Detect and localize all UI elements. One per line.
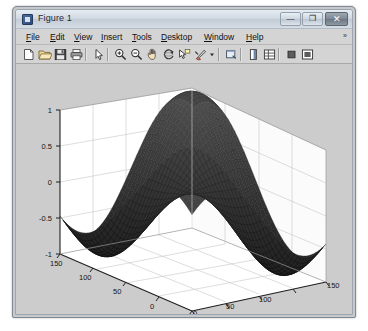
pointer-icon[interactable]: [91, 47, 106, 62]
y-tick-label: 50: [113, 287, 121, 296]
menu-overflow-icon[interactable]: »: [343, 32, 347, 39]
zoom-out-icon[interactable]: [129, 47, 144, 62]
insert-colorbar-icon[interactable]: [246, 47, 261, 62]
save-figure-icon[interactable]: [53, 47, 68, 62]
x-tick-label: 100: [259, 295, 272, 304]
menu-item-label: esktop: [167, 32, 192, 42]
brush-dropdown-icon[interactable]: [207, 47, 217, 62]
data-cursor-icon[interactable]: [177, 47, 192, 62]
open-file-icon[interactable]: [37, 47, 52, 62]
menu-bar: File Edit View Insert Tools Desktop Wind…: [16, 29, 352, 45]
x-tick-label: 50: [226, 302, 234, 311]
window-inner-frame: Figure 1 — ❐ ✕ File Edit View Insert Too…: [15, 9, 353, 315]
toolbar: [16, 45, 352, 64]
toolbar-separator: [107, 48, 109, 61]
y-tick-label: 150: [50, 259, 63, 268]
pan-icon[interactable]: [145, 47, 160, 62]
new-figure-icon[interactable]: [21, 47, 36, 62]
figure-window[interactable]: Figure 1 — ❐ ✕ File Edit View Insert Too…: [12, 6, 356, 318]
menu-item-view[interactable]: View: [72, 31, 94, 43]
menu-item-label: iew: [80, 32, 93, 42]
menu-item-help[interactable]: Help: [244, 31, 265, 43]
link-plot-icon[interactable]: [224, 47, 239, 62]
z-axis-ticks: [56, 110, 60, 254]
maximize-icon: ❐: [303, 13, 322, 25]
insert-legend-icon[interactable]: [262, 47, 277, 62]
surface-plot[interactable]: 1 0.5 0 -0.5 -1 150 100 50 0 0 50 100 15…: [16, 64, 352, 314]
figure-canvas[interactable]: 1 0.5 0 -0.5 -1 150 100 50 0 0 50 100 15…: [16, 64, 352, 314]
menu-item-label: ile: [31, 32, 40, 42]
z-tick-label: 0.5: [42, 142, 52, 151]
y-tick-label: 0: [150, 302, 154, 311]
x-tick-label: 0: [193, 309, 197, 314]
toolbar-separator: [218, 48, 220, 61]
z-tick-label: 0: [48, 178, 52, 187]
print-figure-icon[interactable]: [69, 47, 84, 62]
window-title: Figure 1: [38, 13, 72, 23]
menu-item-label: indow: [212, 32, 234, 42]
zoom-in-icon[interactable]: [113, 47, 128, 62]
minimize-icon: —: [281, 13, 300, 25]
toolbar-separator: [278, 48, 280, 61]
minimize-button[interactable]: —: [280, 12, 301, 26]
title-bar[interactable]: Figure 1 — ❐ ✕: [16, 10, 352, 29]
x-tick-label: 150: [327, 281, 340, 290]
menu-item-file[interactable]: File: [24, 31, 42, 43]
menu-item-edit[interactable]: Edit: [48, 31, 67, 43]
menu-item-desktop[interactable]: Desktop: [159, 31, 194, 43]
menu-item-label: ools: [136, 32, 152, 42]
menu-item-label: dit: [56, 32, 65, 42]
z-tick-label: 1: [48, 106, 52, 115]
maximize-button[interactable]: ❐: [302, 12, 323, 26]
menu-item-insert[interactable]: Insert: [99, 31, 124, 43]
close-button[interactable]: ✕: [325, 12, 348, 26]
matlab-figure-icon: [22, 14, 33, 25]
menu-item-label: nsert: [103, 32, 122, 42]
z-tick-label: -1: [45, 250, 52, 259]
menu-item-label: elp: [252, 32, 263, 42]
show-plot-tools-icon[interactable]: [300, 47, 315, 62]
toolbar-separator: [240, 48, 242, 61]
menu-mnemonic: W: [204, 32, 212, 42]
brush-icon[interactable]: [193, 47, 208, 62]
rotate-3d-icon[interactable]: [161, 47, 176, 62]
y-tick-label: 100: [79, 273, 92, 282]
menu-item-tools[interactable]: Tools: [130, 31, 154, 43]
close-icon: ✕: [326, 13, 347, 25]
z-tick-label: -0.5: [39, 214, 52, 223]
hide-plot-tools-icon[interactable]: [284, 47, 299, 62]
menu-item-window[interactable]: Window: [202, 31, 236, 43]
toolbar-separator: [85, 48, 87, 61]
